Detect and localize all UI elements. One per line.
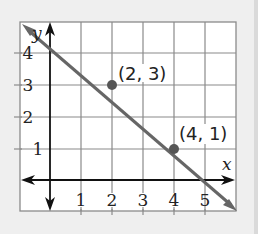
- x-tick-4: 4: [169, 190, 180, 210]
- x-tick-2: 2: [107, 190, 118, 210]
- y-axis-label: y: [31, 23, 42, 43]
- point-4-1: [169, 144, 179, 154]
- x-tick-3: 3: [138, 190, 149, 210]
- x-axis-label: x: [222, 154, 232, 174]
- point-label-2-3: (2, 3): [118, 63, 166, 84]
- graph-figure: y x 4 3 2 1 1 2 3 4 5 (2, 3) (4, 1): [0, 0, 258, 234]
- y-tick-4: 4: [23, 43, 34, 63]
- x-tick-5: 5: [200, 190, 211, 210]
- x-tick-1: 1: [76, 190, 87, 210]
- coordinate-plane: y x 4 3 2 1 1 2 3 4 5 (2, 3) (4, 1): [0, 0, 258, 234]
- page-edge: [254, 0, 258, 234]
- y-tick-3: 3: [23, 75, 34, 95]
- y-tick-2: 2: [23, 107, 34, 127]
- y-tick-1: 1: [33, 139, 44, 159]
- point-label-4-1: (4, 1): [179, 123, 227, 144]
- point-2-3: [107, 80, 117, 90]
